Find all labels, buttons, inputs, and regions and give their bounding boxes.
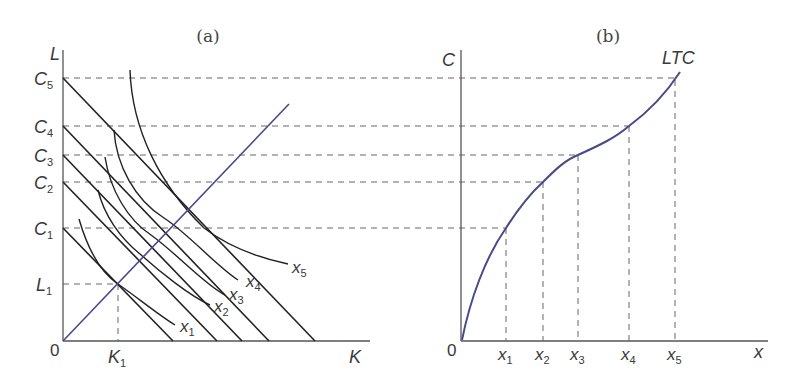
output-label-x3: x3 [569, 345, 585, 366]
label-c5: C5 [34, 69, 53, 91]
ltc-label: LTC [662, 48, 696, 68]
isoquant-label-x4: x4 [245, 272, 261, 293]
panel-b-axes [461, 50, 768, 341]
label-c1: C1 [34, 219, 53, 241]
isoquant-label-x1: x1 [179, 317, 195, 338]
label-c3: C3 [34, 146, 53, 168]
output-axis-labels: x1 x2 x3 x4 x5 [497, 345, 682, 366]
isoquant-label-x5: x5 [291, 258, 307, 279]
output-label-x4: x4 [620, 345, 636, 366]
isoquant-label-x3: x3 [228, 285, 244, 306]
label-l1: L1 [36, 275, 52, 297]
panel-b-y-label: C [442, 50, 456, 70]
expansion-path [63, 104, 289, 341]
ltc-curve [462, 72, 680, 340]
panel-a-origin: 0 [50, 341, 59, 360]
output-label-x5: x5 [666, 345, 682, 366]
label-c4: C4 [34, 117, 53, 139]
label-k1: K1 [108, 347, 126, 369]
cost-level-guides [63, 78, 676, 341]
label-c2: C2 [34, 173, 53, 195]
long-run-total-cost-diagram: (a) (b) L K 0 C5 C4 C3 C2 [0, 0, 799, 386]
isoquant-label-x2: x2 [213, 297, 229, 318]
output-level-guides [506, 80, 675, 341]
output-label-x1: x1 [497, 345, 513, 366]
panel-b-x-label: x [753, 342, 764, 362]
panel-b-origin: 0 [447, 341, 456, 360]
isoquant-x4 [114, 130, 238, 280]
isoquant-x5 [130, 70, 288, 264]
panel-a-title: (a) [196, 26, 219, 46]
output-label-x2: x2 [534, 345, 550, 366]
panel-a-x-label: K [349, 347, 362, 367]
panel-a-y-label: L [50, 44, 60, 64]
panel-b-title: (b) [596, 26, 620, 46]
